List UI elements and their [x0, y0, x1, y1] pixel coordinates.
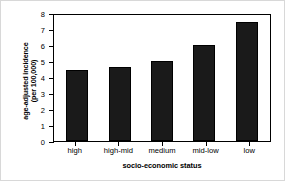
bar-chart-figure: age-adjusted incidence (per 100,000) 876… — [0, 0, 285, 181]
bar-mid-low — [193, 45, 215, 141]
x-tick-label-low: low — [219, 146, 279, 155]
y-tick-label: 8 — [31, 10, 45, 19]
x-axis-title: socio-economic status — [53, 161, 271, 170]
bar-low — [236, 22, 258, 141]
y-tick-label: 6 — [31, 42, 45, 51]
y-tick-label: 4 — [31, 74, 45, 83]
y-tick-label: 1 — [31, 122, 45, 131]
bar-high — [66, 70, 88, 141]
bar-group — [54, 15, 270, 141]
bar-medium — [151, 61, 173, 141]
plot-area — [53, 14, 271, 142]
y-tick-label: 3 — [31, 90, 45, 99]
bar-high-mid — [109, 67, 131, 141]
y-tick-label: 0 — [31, 138, 45, 147]
y-tick-label: 5 — [31, 58, 45, 67]
y-tick-label: 7 — [31, 26, 45, 35]
y-tick-label: 2 — [31, 106, 45, 115]
y-tick-mark — [49, 142, 54, 143]
y-axis-title-line-1: age-adjusted incidence — [22, 42, 30, 119]
